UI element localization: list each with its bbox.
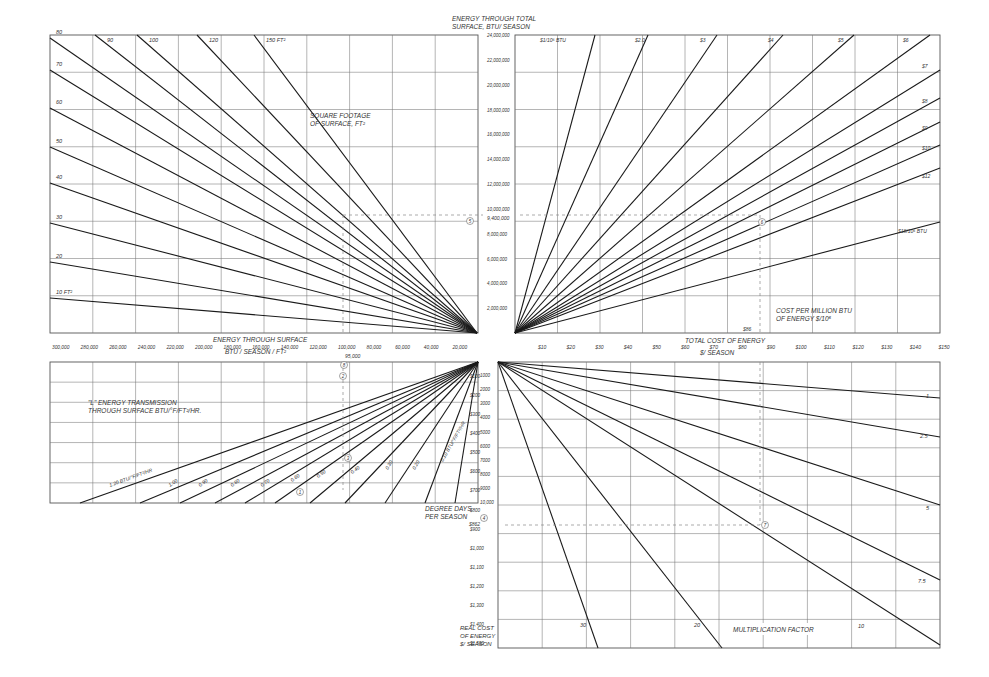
multiplication-label: 20 (693, 622, 701, 628)
sqft-line-label: 100 (149, 37, 159, 43)
left-axis-tick: 220,000 (165, 345, 184, 350)
real-cost-tick: $300 (469, 412, 481, 417)
sqft-line-label: 60 (56, 99, 63, 105)
center-axis-tick: 8,000,000 (487, 232, 508, 237)
degree-days-tick: 3000 (480, 401, 491, 406)
center-axis-tick: 2,000,000 (486, 306, 508, 311)
center-axis-tick: 20,000,000 (486, 83, 510, 88)
right-axis-tick: $110 (823, 344, 835, 350)
transmission-label: 1.00 (167, 477, 179, 488)
degree-days-title: DEGREE DAYS (425, 505, 472, 512)
transmission-label: 0.40 (349, 464, 361, 475)
right-axis-tick: $130 (880, 344, 892, 350)
real-cost-tick: $1,000 (469, 546, 484, 551)
bl-title-2: THROUGH SURFACE BTU/°F/FT²/HR. (88, 407, 202, 414)
right-axis-title: TOTAL COST OF ENERGY (685, 337, 766, 344)
degree-days-tick: 4000 (480, 415, 491, 420)
degree-days-tick: 8000 (480, 472, 491, 477)
transmission-line (385, 362, 478, 503)
left-axis-tick: 100,000 (338, 345, 356, 350)
sqft-line-label: 40 (56, 174, 63, 180)
sqft-line-label: 90 (107, 37, 114, 43)
center-axis-tick: 6,000,000 (487, 257, 508, 262)
tr-title: COST PER MILLION BTU (776, 307, 852, 314)
cost-per-mbtu-label: $7 (921, 63, 928, 69)
bl-title: "L" ENERGY TRANSMISSION (88, 399, 177, 406)
transmission-line (140, 362, 478, 503)
real-cost-tick: $1,100 (469, 565, 484, 570)
multiplication-factor-title: MULTIPLICATION FACTOR (733, 626, 814, 633)
transmission-line (275, 362, 478, 503)
degree-days-tick: 5000 (480, 430, 491, 435)
right-axis-tick: $120 (852, 344, 864, 350)
left-axis-tick: 200,000 (194, 345, 213, 350)
sqft-line-label: 10 FT² (56, 289, 72, 295)
transmission-label: 0.20 (411, 459, 421, 471)
sqft-line-label: 80 (56, 29, 63, 35)
transmission-label: 0.60 (289, 472, 301, 483)
right-axis-tick: $150 (937, 344, 949, 350)
marked-value-95000: 95,000 (345, 353, 361, 359)
real-cost-title: REAL COST (460, 625, 495, 631)
right-axis-tick: $80 (737, 344, 747, 350)
sqft-line (50, 38, 477, 333)
real-cost-title-3: $/ SEASON (459, 641, 492, 647)
left-axis-title-2: BTU / SEASON / FT² (225, 348, 287, 355)
right-axis-tick: $60 (680, 344, 690, 350)
left-axis-tick: 60,000 (395, 345, 410, 350)
real-cost-tick: $400 (469, 431, 481, 436)
cost-per-mbtu-label: $1/10⁶ BTU (539, 37, 566, 43)
sqft-line (50, 183, 477, 333)
center-axis-tick: 22,000,000 (486, 58, 510, 63)
left-axis-tick: 260,000 (108, 345, 127, 350)
right-axis-tick: $50 (651, 344, 661, 350)
cost-per-mbtu-label: $9 (921, 125, 928, 131)
real-cost-tick: $600 (469, 469, 481, 474)
marked-value-862: $862 (468, 521, 480, 527)
cost-per-mbtu-label: $2.0 (634, 37, 645, 43)
sqft-line (50, 262, 477, 333)
sqft-line (50, 298, 477, 333)
sqft-line-label: 120 (209, 37, 219, 43)
cost-per-mbtu-label: $12 (921, 173, 931, 179)
center-axis-tick: 16,000,000 (487, 132, 510, 137)
transmission-line (215, 362, 478, 503)
degree-days-tick: 2000 (479, 387, 491, 392)
marked-value-9400000: 9,400,000 (487, 215, 509, 221)
right-axis-tick: $140 (909, 344, 921, 350)
real-cost-tick: $200 (469, 393, 481, 398)
transmission-label: 0.50 (315, 468, 327, 479)
path-step-number: 2 (341, 374, 345, 379)
multiplication-label: 1 (926, 393, 929, 399)
degree-days-tick: 10,000 (480, 500, 494, 505)
real-cost-tick: $1,200 (469, 584, 484, 589)
left-axis-tick: 280,000 (80, 345, 99, 350)
degree-days-tick: 9000 (480, 486, 491, 491)
real-cost-title-2: OF ENERGY (460, 633, 496, 639)
left-axis-tick: 240,000 (137, 345, 156, 350)
cost-per-mbtu-label: $6 (902, 37, 909, 43)
center-axis-title: ENERGY THROUGH TOTAL (452, 15, 537, 22)
real-cost-tick: $900 (469, 527, 481, 532)
left-axis-tick: 300,000 (52, 345, 70, 350)
cost-per-mbtu-label: $3 (699, 37, 706, 43)
right-axis-tick: $90 (766, 344, 776, 350)
sqft-line-label: 30 (56, 214, 63, 220)
left-axis-title: ENERGY THROUGH SURFACE (213, 336, 308, 343)
left-axis-tick: 40,000 (424, 345, 439, 350)
axis-ticks: 300,000280,000260,000240,000220,000200,0… (52, 33, 950, 646)
real-cost-tick: $100 (469, 374, 481, 379)
center-axis-tick: 18,000,000 (487, 108, 510, 113)
real-cost-tick: $1,300 (469, 603, 484, 608)
marked-value-86: $86 (742, 326, 752, 332)
sqft-line-label: 150 FT² (266, 37, 285, 43)
right-axis-tick: $20 (566, 344, 576, 350)
grid-lines (50, 35, 940, 648)
right-axis-tick: $100 (794, 344, 806, 350)
tl-title: SQUARE FOOTAGE (310, 112, 371, 120)
tl-title-2: OF SURFACE, FT² (310, 120, 366, 127)
center-axis-title-2: SURFACE, BTU/ SEASON (452, 23, 530, 30)
multiplication-label: 10 (858, 623, 865, 629)
center-axis-tick: 24,000,000 (486, 33, 510, 38)
transmission-line (310, 362, 478, 503)
